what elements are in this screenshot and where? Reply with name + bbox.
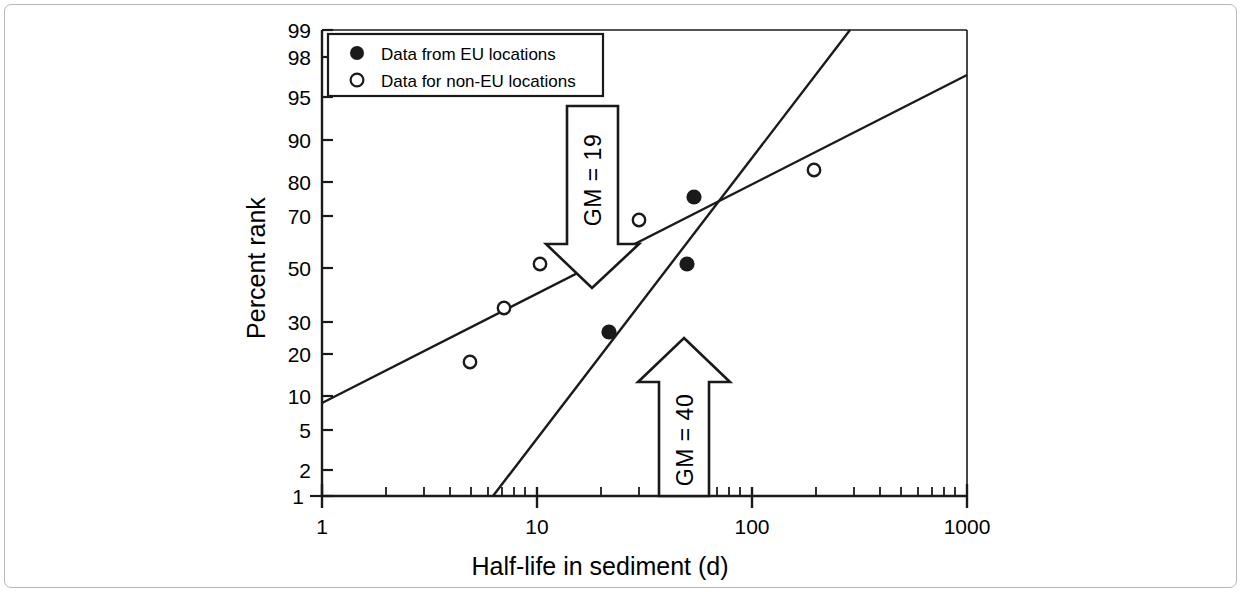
plot-axes [322,30,967,496]
y-tick-label-2: 2 [299,459,311,482]
y-tick-label-5: 5 [299,419,311,442]
y-axis-title: Percent rank [242,197,270,339]
data-point-filled [679,256,694,271]
y-tick-label-50: 50 [288,257,311,280]
data-point-filled [601,324,616,339]
filled-circle-marker [350,46,364,60]
y-tick-label-98: 98 [288,46,311,69]
percent-rank-vs-half-life-chart: 99 98 95 90 80 70 50 30 20 10 5 2 1 [0,0,1241,592]
figure-page: 99 98 95 90 80 70 50 30 20 10 5 2 1 [0,0,1241,592]
y-tick-label-90: 90 [288,129,311,152]
non-eu-data-points [464,164,820,368]
y-tick-label-99: 99 [288,19,311,42]
y-tick-label-10: 10 [288,385,311,408]
gm-40-arrow-label: GM = 40 [672,394,698,486]
chart-legend: Data from EU locations Data for non-EU l… [328,34,603,96]
x-tick-label-10: 10 [525,515,548,538]
gm-19-arrow: GM = 19 [546,106,639,288]
legend-label-non-eu: Data for non-EU locations [381,72,576,91]
x-tick-label-100: 100 [734,515,769,538]
y-tick-label-20: 20 [288,343,311,366]
y-tick-label-1: 1 [292,485,304,508]
x-axis-tick-labels: 1 10 100 1000 [316,515,990,538]
legend-label-eu: Data from EU locations [381,45,556,64]
y-axis-tick-labels: 99 98 95 90 80 70 50 30 20 10 5 2 1 [288,19,311,508]
data-point-open [633,214,645,226]
data-point-filled [686,189,701,204]
y-tick-label-30: 30 [288,311,311,334]
gm-19-arrow-label: GM = 19 [580,134,606,226]
gm-40-arrow: GM = 40 [638,338,730,496]
x-axis-title: Half-life in sediment (d) [471,552,728,580]
y-tick-label-80: 80 [288,171,311,194]
y-tick-label-70: 70 [288,205,311,228]
data-point-open [534,258,546,270]
y-tick-label-95: 95 [288,86,311,109]
data-point-open [498,302,510,314]
x-tick-label-1: 1 [316,515,328,538]
fit-lines [322,30,967,496]
open-circle-marker [351,74,364,87]
x-tick-label-1000: 1000 [944,515,991,538]
data-point-open [808,164,820,176]
non-eu-fit-line [322,75,967,403]
data-point-open [464,356,476,368]
